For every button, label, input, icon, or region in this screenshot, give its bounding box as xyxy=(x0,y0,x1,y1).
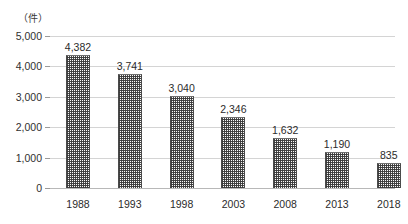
bar-value-label: 1,190 xyxy=(310,139,364,150)
x-axis-tick-label: 1998 xyxy=(155,199,209,210)
bar-value-label: 2,346 xyxy=(206,104,260,115)
y-axis-tick-label: 2,000 xyxy=(0,122,42,132)
gridline xyxy=(50,188,395,189)
bar xyxy=(377,163,401,188)
x-axis-tick-label: 2013 xyxy=(310,199,364,210)
bar-value-label: 3,741 xyxy=(103,61,157,72)
y-axis-tick-label: 5,000 xyxy=(0,31,42,41)
y-axis-unit-label: （件） xyxy=(0,10,48,25)
x-axis-tick-label: 2008 xyxy=(258,199,312,210)
x-axis-tick-label: 1988 xyxy=(51,199,105,210)
bar-value-label: 835 xyxy=(362,150,408,161)
x-axis-tick-label: 1993 xyxy=(103,199,157,210)
bar xyxy=(118,74,142,188)
bar xyxy=(66,55,90,188)
y-axis-tick-label: 1,000 xyxy=(0,153,42,163)
y-axis-tick-label: 0 xyxy=(0,183,42,193)
bar-value-label: 1,632 xyxy=(258,125,312,136)
bar xyxy=(273,138,297,188)
bar-chart: （件） 01,0002,0003,0004,0005,000 4,3823,74… xyxy=(0,0,408,224)
y-axis-tick-label: 4,000 xyxy=(0,61,42,71)
gridline xyxy=(50,97,395,98)
bar xyxy=(325,152,349,188)
gridline xyxy=(50,36,395,37)
x-axis-tick-label: 2003 xyxy=(206,199,260,210)
gridline xyxy=(50,66,395,67)
y-axis-tick-label: 3,000 xyxy=(0,92,42,102)
bar xyxy=(221,117,245,188)
bar-value-label: 3,040 xyxy=(155,83,209,94)
bar-value-label: 4,382 xyxy=(51,42,105,53)
x-axis-tick-label: 2018 xyxy=(362,199,408,210)
bar xyxy=(170,96,194,188)
